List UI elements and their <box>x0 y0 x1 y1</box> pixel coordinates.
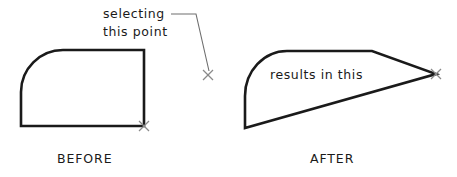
caption-after: AFTER <box>310 151 354 166</box>
before-shape-outline <box>21 50 144 126</box>
selecting-label-line1: selecting <box>103 6 165 21</box>
after-shape-outline <box>245 51 436 128</box>
diagram-canvas: selecting this point results in this BEF… <box>0 0 457 177</box>
selecting-label-line2: this point <box>103 24 168 39</box>
stretch-diagram: selecting this point results in this BEF… <box>0 0 457 177</box>
caption-before: BEFORE <box>57 151 113 166</box>
grip-marker-selection <box>203 70 213 80</box>
after-panel <box>245 51 436 128</box>
results-in-this-label: results in this <box>270 67 363 82</box>
selecting-this-point-leader <box>171 14 209 71</box>
before-panel <box>21 50 144 126</box>
